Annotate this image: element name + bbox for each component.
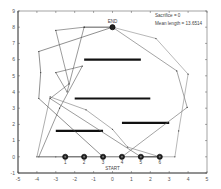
waypoint	[82, 65, 83, 66]
start-node-center	[102, 156, 104, 158]
waypoint	[38, 51, 39, 52]
y-tick-label: 3	[12, 105, 15, 111]
waypoint	[67, 91, 68, 92]
x-tick-label: 3	[168, 176, 171, 182]
waypoint	[174, 156, 175, 157]
waypoint	[84, 27, 85, 28]
waypoint	[155, 38, 156, 39]
waypoint	[59, 108, 60, 109]
x-tick-label: -4	[35, 176, 40, 182]
waypoint	[176, 70, 177, 71]
y-tick-label: 0	[12, 154, 15, 160]
x-tick-label: -2	[72, 176, 77, 182]
y-tick-label: 2	[12, 121, 15, 127]
waypoint	[85, 109, 86, 110]
y-tick-label: -1	[11, 170, 16, 176]
waypoint	[36, 156, 37, 157]
waypoint	[50, 98, 51, 99]
start-node-center	[159, 156, 161, 158]
plot-area	[18, 11, 207, 173]
x-tick-label: 5	[206, 176, 209, 182]
waypoint	[38, 98, 39, 99]
start-node-center	[83, 156, 85, 158]
start-node-label: 1	[64, 160, 67, 165]
mean-length-annotation: Mean length = 13.6514	[155, 21, 203, 26]
waypoint	[40, 72, 41, 73]
x-tick-label: -3	[54, 176, 59, 182]
start-node-center	[64, 156, 66, 158]
x-tick-label: 1	[130, 176, 133, 182]
waypoint	[50, 96, 51, 97]
waypoint	[112, 129, 113, 130]
x-tick-label: -5	[16, 176, 21, 182]
x-tick-label: 2	[149, 176, 152, 182]
plot-border	[18, 11, 207, 173]
waypoint	[188, 74, 189, 75]
end-label: END	[108, 19, 118, 24]
start-node-label: 5	[140, 160, 143, 165]
sacrifice-annotation: Sacrifice = 0	[155, 13, 181, 18]
waypoint	[55, 72, 56, 73]
y-tick-label: 6	[12, 56, 15, 62]
x-tick-label: -1	[91, 176, 96, 182]
start-node-label: 3	[102, 160, 105, 165]
waypoint	[55, 30, 56, 31]
y-tick-label: 7	[12, 40, 15, 46]
end-point-icon	[110, 25, 115, 30]
waypoint	[178, 130, 179, 131]
y-tick-label: 4	[12, 89, 15, 95]
y-tick-label: 8	[12, 24, 15, 30]
x-tick-label: 4	[187, 176, 190, 182]
chart: -5-4-3-2-1012345 -10123456789 123456 END…	[0, 0, 221, 189]
x-tick-label: 0	[111, 176, 114, 182]
waypoint	[68, 83, 69, 84]
y-tick-label: 9	[12, 8, 15, 14]
y-tick-label: 1	[12, 137, 15, 143]
waypoint	[127, 146, 128, 147]
start-node-label: 4	[121, 160, 124, 165]
waypoint	[187, 107, 188, 108]
y-tick-label: 5	[12, 73, 15, 79]
start-node-label: 2	[83, 160, 86, 165]
start-label: START	[105, 166, 120, 171]
start-node-label: 6	[158, 160, 161, 165]
start-node-center	[140, 156, 142, 158]
start-node-center	[121, 156, 123, 158]
